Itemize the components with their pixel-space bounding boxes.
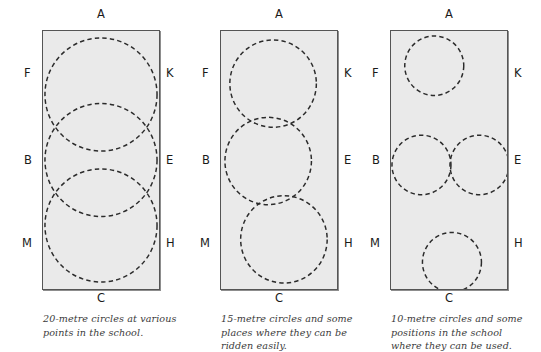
circles-layer-1	[43, 31, 159, 289]
panel-caption-2: 15-metre circles and some places where t…	[221, 312, 363, 352]
arena-wrapper-3: A C F B M K E H	[348, 0, 528, 300]
panel-caption-3: 10-metre circles and some positions in t…	[391, 312, 533, 352]
marker-B: B	[202, 155, 210, 167]
circle-15m-middle	[225, 117, 312, 204]
arena-wrapper-1: A C F B M K E H	[0, 0, 180, 300]
caption-line: ridden easily.	[221, 339, 363, 352]
panel-20-metre: A C F B M K E H 20-metre circles at vari…	[0, 0, 180, 352]
marker-K: K	[166, 68, 174, 80]
marker-M: M	[370, 238, 380, 250]
panel-15-metre: A C F B M K E H 15-metre circles and som…	[178, 0, 358, 352]
marker-H: H	[166, 238, 175, 250]
marker-M: M	[22, 238, 32, 250]
circle-20m-top	[45, 38, 157, 151]
circle-20m-bottom	[45, 169, 157, 282]
marker-C: C	[390, 293, 508, 305]
arena-wrapper-2: A C F B M K E H	[178, 0, 358, 300]
marker-B: B	[24, 155, 32, 167]
arena-circles-figure: A C F B M K E H 20-metre circles at vari…	[0, 0, 541, 352]
caption-line: positions in the school	[391, 326, 533, 340]
marker-K: K	[514, 68, 522, 80]
marker-E: E	[514, 155, 521, 167]
caption-line: 10-metre circles and some	[391, 312, 533, 326]
marker-C: C	[42, 293, 160, 305]
arena-rectangle-3	[390, 30, 508, 290]
circle-20m-middle	[45, 103, 157, 216]
marker-F: F	[24, 68, 31, 80]
panel-10-metre: A C F B M K E H 10-metre circles and som…	[348, 0, 528, 352]
circle-10m-top-left	[405, 36, 464, 96]
marker-A: A	[390, 9, 508, 21]
marker-E: E	[166, 155, 173, 167]
circle-15m-bottom	[241, 196, 328, 283]
marker-A: A	[220, 9, 338, 21]
caption-line: 20-metre circles at various	[43, 312, 185, 326]
marker-H: H	[514, 238, 523, 250]
caption-line: places where they can be	[221, 326, 363, 340]
caption-line: 15-metre circles and some	[221, 312, 363, 326]
circle-10m-middle-left	[392, 135, 451, 195]
marker-B: B	[372, 155, 380, 167]
circle-15m-top	[230, 40, 317, 127]
marker-C: C	[220, 293, 338, 305]
caption-line: points in the school.	[43, 326, 185, 340]
circles-layer-3	[391, 31, 507, 289]
marker-F: F	[202, 68, 209, 80]
marker-A: A	[42, 9, 160, 21]
panel-caption-1: 20-metre circles at various points in th…	[43, 312, 185, 339]
marker-F: F	[372, 68, 379, 80]
caption-line: where they can be used.	[391, 339, 533, 352]
circles-layer-2	[221, 31, 337, 289]
arena-rectangle-2	[220, 30, 338, 290]
circle-10m-bottom	[422, 232, 481, 289]
marker-M: M	[200, 238, 210, 250]
arena-rectangle-1	[42, 30, 160, 290]
circle-10m-middle-right	[450, 135, 507, 195]
